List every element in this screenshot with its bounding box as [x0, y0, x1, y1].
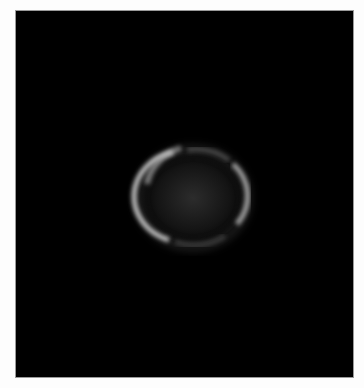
- image-frame: [15, 10, 354, 378]
- ring: [121, 136, 261, 256]
- ring-graphic: [121, 136, 261, 256]
